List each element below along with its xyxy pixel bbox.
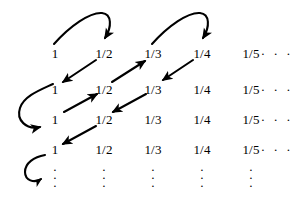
grid-cell: 1/3 xyxy=(144,143,161,156)
row-ellipsis: · · · xyxy=(261,143,294,156)
grid-cell: 1/5 xyxy=(242,47,259,60)
row-ellipsis: · · · xyxy=(261,113,294,126)
column-ellipsis: · · · xyxy=(102,166,106,190)
grid-cell: 1/5 xyxy=(242,83,259,96)
grid-cell: 1 xyxy=(52,47,59,60)
grid-cell: 1 xyxy=(52,83,59,96)
column-ellipsis: · · · xyxy=(249,166,253,190)
grid-cell: 1/4 xyxy=(193,83,210,96)
arc-row1-col3-to-col4 xyxy=(152,13,208,44)
grid-cell: 1/4 xyxy=(193,113,210,126)
arrow-r3c2-to-r4c1 xyxy=(63,126,96,144)
grid-cell: 1/2 xyxy=(95,83,112,96)
grid-cell: 1/5 xyxy=(242,113,259,126)
arrow-r1c4-to-r2c3 xyxy=(163,60,193,80)
grid-cell: 1/2 xyxy=(95,47,112,60)
grid-cell: 1/4 xyxy=(193,47,210,60)
arrow-r2c3-to-r3c2 xyxy=(113,94,146,112)
arc-row1-col1-to-col2 xyxy=(54,13,110,44)
grid-cell: 1 xyxy=(52,143,59,156)
hook-row2-col1-to-row3-col1 xyxy=(19,84,53,128)
diagonal-enumeration-figure: 1 1/2 1/3 1/4 1/5 · · · 1 1/2 1/3 1/4 1/… xyxy=(0,0,301,199)
grid-cell: 1/3 xyxy=(144,113,161,126)
row-ellipsis: · · · xyxy=(261,47,294,60)
row-ellipsis: · · · xyxy=(261,83,294,96)
grid-cell: 1/3 xyxy=(144,83,161,96)
arrow-r1c2-to-r2c1 xyxy=(63,60,96,82)
grid-cell: 1/2 xyxy=(95,113,112,126)
hook-row4-col1-to-ellipsis xyxy=(25,155,45,181)
column-ellipsis: · · · xyxy=(200,166,204,190)
column-ellipsis: · · · xyxy=(53,166,57,190)
grid-cell: 1/4 xyxy=(193,143,210,156)
grid-cell: 1/3 xyxy=(144,47,161,60)
grid-cell: 1/2 xyxy=(95,143,112,156)
arrow-r3c1-to-r2c2 xyxy=(64,94,97,112)
arrow-r2c2-to-r1c3 xyxy=(112,61,145,82)
grid-cell: 1 xyxy=(52,113,59,126)
grid-cell: 1/5 xyxy=(242,143,259,156)
column-ellipsis: · · · xyxy=(151,166,155,190)
